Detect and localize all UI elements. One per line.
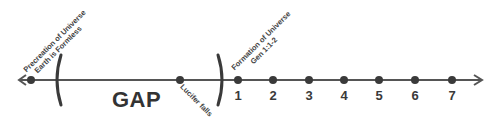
day-1-point — [234, 76, 242, 84]
day-6-label: 6 — [411, 88, 418, 103]
day-2-label: 2 — [269, 88, 276, 103]
precreation-point — [27, 76, 35, 84]
day-3-label: 3 — [305, 88, 312, 103]
day-5-point — [375, 76, 383, 84]
day-6-point — [411, 76, 419, 84]
gap-label: GAP — [112, 87, 161, 113]
day-4-label: 4 — [340, 88, 347, 103]
day-7-label: 7 — [448, 88, 455, 103]
day-1-label: 1 — [234, 88, 241, 103]
day-4-point — [340, 76, 348, 84]
gap-theory-timeline: Precreation of Universe Earth is Formles… — [0, 0, 489, 133]
day-5-label: 5 — [375, 88, 382, 103]
day-7-point — [448, 76, 456, 84]
day-2-point — [269, 76, 277, 84]
day-3-point — [305, 76, 313, 84]
